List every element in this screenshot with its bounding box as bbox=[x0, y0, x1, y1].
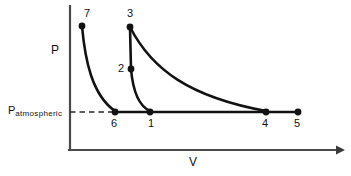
state-point-3 bbox=[127, 24, 134, 31]
pv-plot-canvas bbox=[0, 0, 351, 176]
state-point-label-5: 5 bbox=[294, 118, 300, 129]
y-axis-label: P bbox=[51, 44, 59, 56]
state-point-label-1: 1 bbox=[148, 118, 154, 129]
x-axis-arrow-icon bbox=[336, 146, 345, 155]
segment-3-to-4 bbox=[130, 27, 266, 111]
state-point-1 bbox=[147, 109, 154, 116]
state-point-2 bbox=[128, 66, 135, 73]
segment-7-to-6 bbox=[82, 26, 115, 111]
state-point-5 bbox=[295, 109, 302, 116]
state-point-7 bbox=[79, 23, 86, 30]
atmospheric-pressure-label-sub: atmospheric bbox=[15, 109, 62, 118]
state-point-label-4: 4 bbox=[262, 118, 268, 129]
state-point-4 bbox=[263, 109, 270, 116]
state-point-label-2: 2 bbox=[118, 63, 124, 74]
state-point-6 bbox=[112, 109, 119, 116]
atmospheric-pressure-label: Patmospheric bbox=[8, 105, 62, 116]
x-axis-label: V bbox=[189, 156, 197, 168]
state-point-label-7: 7 bbox=[84, 8, 90, 19]
pv-diagram-figure: P V Patmospheric 7 3 2 6 1 4 5 bbox=[0, 0, 351, 176]
state-point-label-6: 6 bbox=[111, 118, 117, 129]
state-point-label-3: 3 bbox=[127, 8, 133, 19]
segment-2-to-1 bbox=[131, 69, 150, 111]
segment-3-to-2 bbox=[130, 27, 131, 69]
